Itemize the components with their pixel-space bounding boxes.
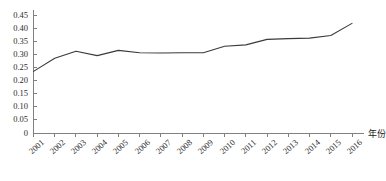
y-axis-tick-label: 0.25 (0, 63, 28, 72)
series-line (34, 23, 353, 71)
data-series (34, 23, 353, 71)
y-axis-tick-label: 0.45 (0, 11, 28, 20)
y-axis-tick-label: 0.05 (0, 115, 28, 124)
y-axis-tick-label: 0.20 (0, 76, 28, 85)
chart-axes (34, 10, 365, 137)
y-axis-tick-label: 0.40 (0, 24, 28, 33)
y-axis-tick-label: 0.30 (0, 50, 28, 59)
y-axis-tick-label: 0.35 (0, 37, 28, 46)
y-axis-tick-label: 0.10 (0, 102, 28, 111)
y-axis-tick-label: 0 (0, 129, 28, 138)
y-axis-tick-label: 0.15 (0, 89, 28, 98)
x-axis-title: 年份 (368, 127, 386, 140)
